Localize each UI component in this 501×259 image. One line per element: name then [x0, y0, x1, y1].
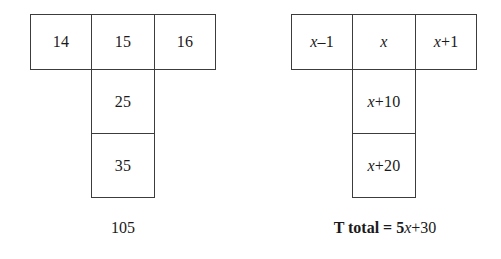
numeric-cell-top-middle: 15 — [91, 14, 155, 70]
algebraic-cell-top-right-offset: +1 — [441, 34, 458, 50]
algebraic-total-tail: +30 — [411, 219, 436, 236]
algebraic-cell-top-middle-variable: x — [380, 34, 387, 50]
numeric-cell-top-right: 16 — [154, 14, 216, 70]
algebraic-cell-top-right: x+1 — [415, 14, 477, 70]
algebraic-total-caption: T total = 5x+30 — [246, 220, 501, 236]
numeric-cell-top-middle-value: 15 — [115, 34, 131, 50]
numeric-total-value: 105 — [111, 219, 135, 236]
algebraic-cell-stem-lower-offset: +20 — [375, 158, 401, 174]
numeric-cell-top-right-value: 16 — [177, 34, 193, 50]
numeric-cell-top-left-value: 14 — [53, 34, 69, 50]
numeric-cell-stem-upper-value: 25 — [115, 94, 131, 110]
numeric-total-caption: 105 — [0, 220, 246, 236]
algebraic-total-lead: T total = 5 — [334, 219, 405, 236]
algebraic-cell-stem-lower-variable: x — [368, 158, 375, 174]
algebraic-cell-top-left-offset: –1 — [317, 34, 333, 50]
algebraic-cell-top-left: x–1 — [291, 14, 353, 70]
numeric-cell-stem-lower-value: 35 — [115, 158, 131, 174]
figure-canvas: 14 15 16 25 35 105 x–1 x x+1 x+10 — [0, 0, 501, 259]
numeric-cell-top-left: 14 — [30, 14, 92, 70]
algebraic-cell-stem-lower: x+20 — [352, 133, 416, 198]
algebraic-cell-stem-upper: x+10 — [352, 69, 416, 134]
algebraic-cell-stem-upper-variable: x — [368, 94, 375, 110]
numeric-cell-stem-lower: 35 — [91, 133, 155, 198]
numeric-cell-stem-upper: 25 — [91, 69, 155, 134]
algebraic-cell-stem-upper-offset: +10 — [375, 94, 401, 110]
algebraic-cell-top-middle: x — [352, 14, 416, 70]
algebraic-cell-top-right-variable: x — [434, 34, 441, 50]
